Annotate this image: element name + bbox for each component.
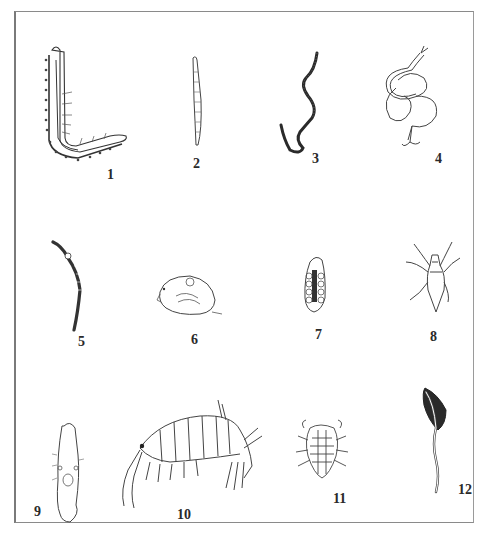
tailed-organism-drawing <box>0 0 487 537</box>
figure-number-12: 12 <box>458 483 472 497</box>
